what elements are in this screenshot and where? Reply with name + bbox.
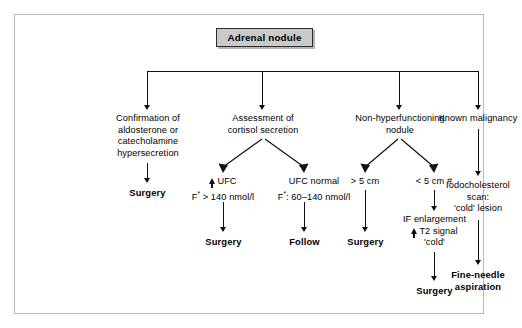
branch-4-to-outcome-line	[478, 220, 479, 262]
branch-2-line-1: Assessment of	[203, 113, 323, 125]
main-arrowhead-4	[475, 105, 481, 110]
branch-3b-detail-line-2-group: T2 signal	[383, 226, 486, 238]
branch-4-step-line-1: Iodocholesterol	[425, 180, 522, 192]
branch-4-outcome-line-2: aspiration	[433, 281, 522, 293]
branch-2-label: Assessment of cortisol secretion	[203, 113, 323, 136]
branch-4-step-line-3: 'cold' lesion	[425, 203, 522, 215]
branch-2a-to-outcome-line	[223, 202, 224, 229]
branch-2-fork	[205, 139, 323, 175]
main-bus-horizontal	[147, 71, 479, 72]
diagram-panel: Adrenal nodule Confirmation of aldostero…	[14, 14, 484, 314]
branch-1-to-outcome-arrowhead	[144, 178, 150, 183]
branch-1-line-4: hypersecretion	[77, 148, 219, 160]
branch-4-step-line-2: scan:	[425, 192, 522, 204]
branch-2a-line-1: UFC	[217, 176, 236, 186]
branch-2a-outcome-surgery: Surgery	[185, 236, 262, 248]
branch-2-line-2: cortisol secretion	[203, 125, 323, 137]
branch-4-label: Known malignancy	[413, 113, 522, 125]
branch-3b-detail: IF enlargement T2 signal 'cold'	[383, 214, 486, 249]
main-dropper-1	[147, 71, 148, 107]
branch-2a-f-value: > 140 nmol/l	[200, 192, 254, 202]
branch-4-to-step-arrowhead	[475, 171, 481, 176]
branch-1-label: Confirmation of aldosterone or catechola…	[77, 113, 219, 159]
branch-4-to-step-line	[478, 129, 479, 173]
branch-3b-detail-line-3: 'cold'	[383, 237, 486, 249]
main-dropper-3	[399, 71, 400, 107]
main-arrowhead-1	[144, 105, 150, 110]
branch-3b-detail-line-1: IF enlargement	[383, 214, 486, 226]
branch-2b-line-2: F*: 60–140 nmol/l	[257, 188, 371, 204]
branch-2b-to-outcome-line	[304, 202, 305, 229]
main-arrowhead-3	[396, 105, 402, 110]
up-arrow-icon-t2-signal	[411, 228, 417, 234]
branch-3b-detail-line-2: T2 signal	[419, 226, 457, 236]
root-node-adrenal-nodule[interactable]: Adrenal nodule	[216, 28, 313, 47]
up-arrow-icon-ufc-high	[209, 178, 215, 184]
branch-2b-f-value: : 60–140 nmol/l	[286, 192, 350, 202]
branch-2b-to-outcome-arrowhead	[301, 227, 307, 232]
main-arrowhead-2	[259, 105, 265, 110]
branch-1-line-1: Confirmation of	[77, 113, 219, 125]
main-dropper-2	[262, 71, 263, 107]
branch-3-fork	[345, 139, 455, 175]
branch-3a-to-outcome-arrowhead	[362, 227, 368, 232]
branch-4-to-outcome-arrowhead	[475, 260, 481, 265]
branch-1-line-3: catecholamine	[77, 136, 219, 148]
branch-3a-to-outcome-line	[365, 190, 366, 229]
branch-3-line-2: nodule	[340, 125, 460, 137]
main-dropper-4	[478, 71, 479, 107]
branch-4-outcome-fine-needle-aspiration: Fine-needle aspiration	[433, 269, 522, 292]
branch-1-line-2: aldosterone or	[77, 125, 219, 137]
branch-4-outcome-line-1: Fine-needle	[433, 269, 522, 281]
branch-4-step: Iodocholesterol scan: 'cold' lesion	[425, 180, 522, 215]
branch-2a-to-outcome-arrowhead	[220, 227, 226, 232]
branch-3a-label: > 5 cm	[327, 176, 403, 188]
